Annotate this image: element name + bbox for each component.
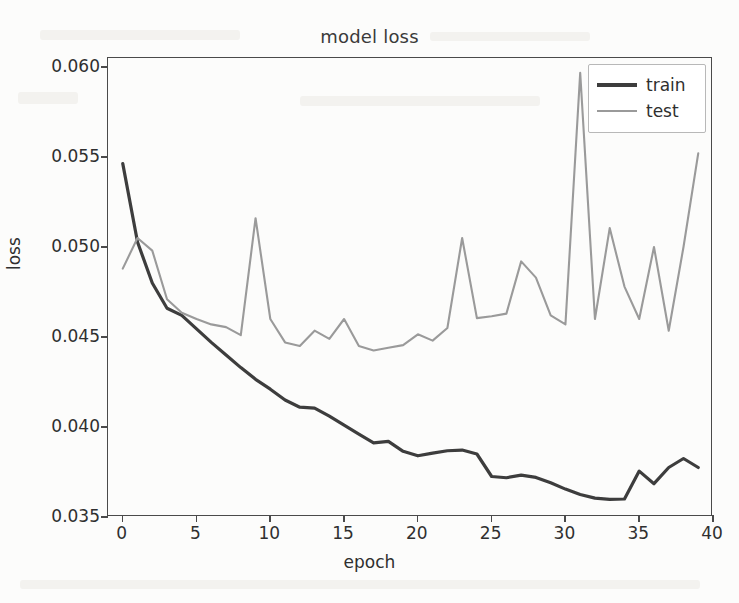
- legend: traintest: [588, 64, 706, 133]
- legend-item-test[interactable]: test: [597, 98, 697, 124]
- x-axis-tick-label: 0: [100, 523, 144, 543]
- x-axis-tick-mark: [196, 515, 198, 522]
- y-axis-tick-labels: 0.0350.0400.0450.0500.0550.060: [8, 57, 100, 516]
- x-axis-tick-mark: [638, 515, 640, 522]
- x-axis-tick-mark: [564, 515, 566, 522]
- y-axis-tick-label: 0.060: [12, 56, 100, 76]
- x-axis-tick-label: 30: [542, 523, 586, 543]
- chart-title: model loss: [0, 26, 739, 47]
- x-axis-tick-mark: [269, 515, 271, 522]
- x-axis-tick-label: 15: [321, 523, 365, 543]
- x-axis-tick-label: 10: [247, 523, 291, 543]
- x-axis-tick-mark: [343, 515, 345, 522]
- legend-item-label: test: [646, 103, 679, 120]
- y-axis-tick-mark: [101, 516, 108, 518]
- x-axis-tick-mark: [712, 515, 714, 522]
- line-swatch-icon: [597, 83, 637, 86]
- y-axis-tick-label: 0.050: [12, 236, 100, 256]
- y-axis-tick-label: 0.035: [12, 506, 100, 526]
- x-axis-tick-label: 20: [395, 523, 439, 543]
- x-axis-tick-label: 40: [690, 523, 734, 543]
- legend-item-train[interactable]: train: [597, 72, 697, 98]
- line-swatch-icon: [597, 110, 637, 113]
- series-line-train: [123, 164, 698, 500]
- chart-screenshot: model loss loss 0.0350.0400.0450.0500.05…: [0, 0, 739, 603]
- x-axis-tick-mark: [122, 515, 124, 522]
- y-axis-tick-label: 0.055: [12, 146, 100, 166]
- x-axis-label: epoch: [0, 552, 739, 572]
- y-axis-tick-label: 0.040: [12, 416, 100, 436]
- legend-item-label: train: [646, 77, 686, 94]
- x-axis-tick-mark: [417, 515, 419, 522]
- x-axis-tick-label: 25: [469, 523, 513, 543]
- x-axis-tick-mark: [491, 515, 493, 522]
- x-axis-tick-label: 5: [174, 523, 218, 543]
- y-axis-tick-label: 0.045: [12, 326, 100, 346]
- x-axis-tick-label: 35: [616, 523, 660, 543]
- scan-artifact: [20, 580, 700, 589]
